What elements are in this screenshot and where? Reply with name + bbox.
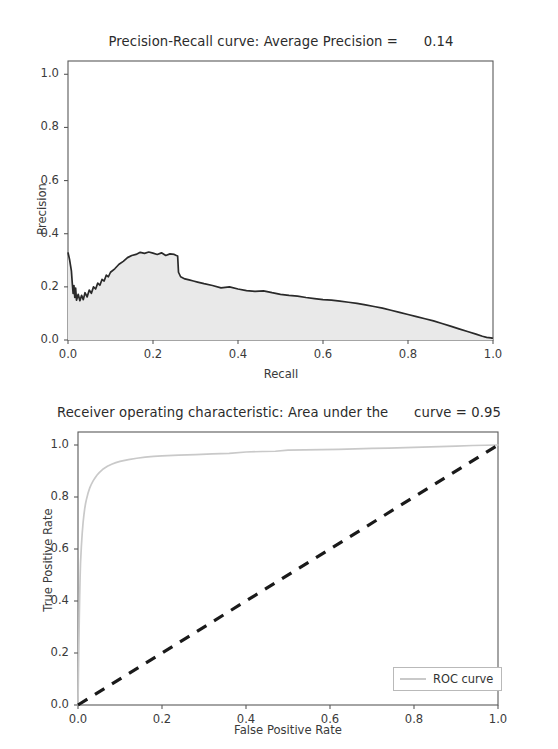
precision-recall-x-axis-label: Recall: [68, 367, 494, 381]
roc-legend: ROC curve: [393, 667, 502, 691]
roc-x-axis-label: False Positive Rate: [78, 723, 498, 737]
roc-y-axis-label: True Positive Rate: [41, 488, 55, 632]
y-tick-label: 0.0: [29, 697, 69, 711]
x-tick-label: 0.6: [303, 347, 343, 361]
y-tick-label: 0.6: [19, 173, 59, 187]
x-tick-label: 0.4: [226, 712, 266, 726]
y-tick-label: 0.0: [19, 332, 59, 346]
roc-plot: [0, 398, 558, 749]
y-tick-label: 0.4: [29, 593, 69, 607]
x-tick-label: 0.8: [388, 347, 428, 361]
x-tick-label: 0.8: [394, 712, 434, 726]
x-tick-label: 1.0: [478, 712, 518, 726]
x-tick-label: 0.6: [310, 712, 350, 726]
x-tick-label: 0.2: [133, 347, 173, 361]
y-tick-label: 0.2: [29, 645, 69, 659]
roc-panel: Receiver operating characteristic: Area …: [0, 398, 558, 749]
x-tick-label: 0.2: [142, 712, 182, 726]
y-tick-label: 0.2: [19, 279, 59, 293]
roc-curve-legend-swatch: [400, 678, 426, 680]
roc-curve-legend-label: ROC curve: [433, 672, 493, 686]
matplotlib-figure: Precision-Recall curve: Average Precisio…: [0, 0, 558, 749]
x-tick-label: 0.0: [58, 712, 98, 726]
precision-recall-panel: Precision-Recall curve: Average Precisio…: [0, 22, 558, 392]
x-tick-label: 0.0: [48, 347, 88, 361]
y-tick-label: 1.0: [29, 437, 69, 451]
y-tick-label: 0.8: [19, 119, 59, 133]
x-tick-label: 0.4: [218, 347, 258, 361]
y-tick-label: 0.8: [29, 489, 69, 503]
y-tick-label: 0.4: [19, 226, 59, 240]
y-tick-label: 1.0: [19, 66, 59, 80]
precision-recall-plot: [0, 22, 558, 392]
y-tick-label: 0.6: [29, 541, 69, 555]
x-tick-label: 1.0: [473, 347, 513, 361]
